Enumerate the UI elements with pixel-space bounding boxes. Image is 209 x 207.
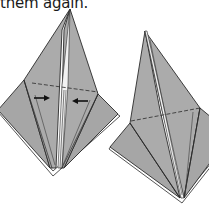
left-origami-figure	[0, 9, 120, 176]
right-origami-figure	[109, 31, 209, 203]
origami-diagram	[0, 0, 209, 207]
